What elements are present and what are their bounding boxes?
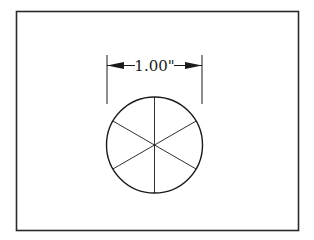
- dimension-label: 1.00": [134, 57, 174, 75]
- diagram-canvas: 1.00": [0, 0, 314, 240]
- frame-border: [17, 12, 299, 231]
